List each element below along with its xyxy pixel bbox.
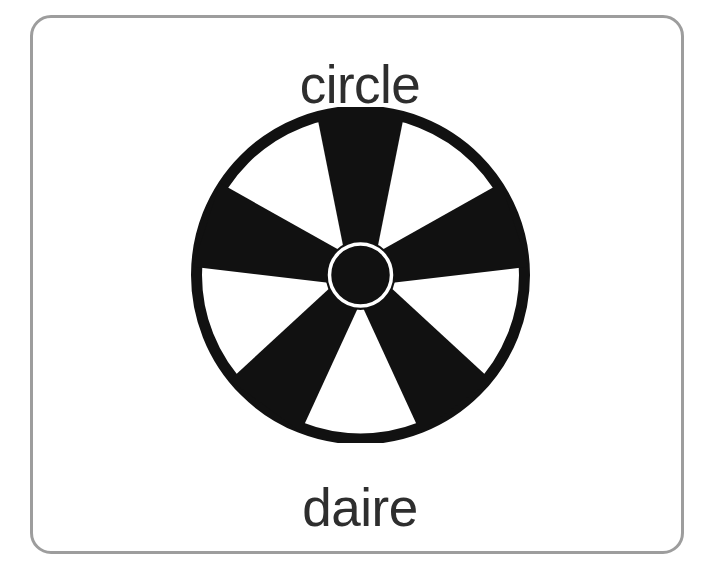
flashcard-root: circle <box>0 0 709 579</box>
turkish-word-label: daire <box>30 481 690 534</box>
english-word-label: circle <box>30 58 690 111</box>
illustration-container <box>30 107 690 443</box>
card-content: circle <box>30 15 690 560</box>
wheel-icon <box>190 107 531 443</box>
